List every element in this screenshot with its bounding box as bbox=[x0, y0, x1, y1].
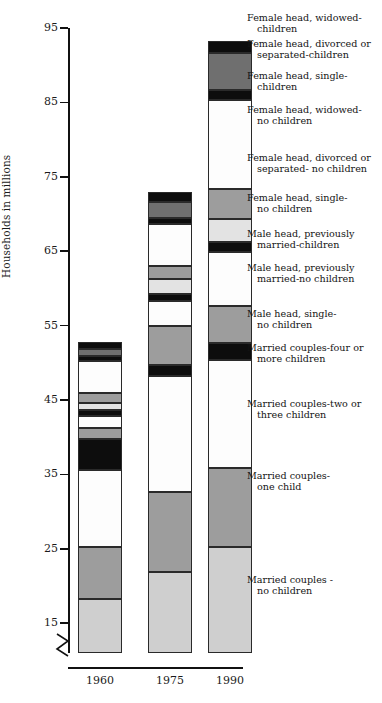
legend-item-line2: one child bbox=[257, 481, 302, 492]
legend-item-line2: separated-children bbox=[257, 49, 349, 60]
x-tick-label-1960: 1960 bbox=[70, 674, 130, 687]
legend-item: Married couples-two orthree children bbox=[247, 398, 382, 421]
bar-1990[interactable] bbox=[208, 41, 252, 667]
bar-segment[interactable] bbox=[148, 224, 192, 266]
bar-segment[interactable] bbox=[208, 242, 252, 252]
y-tick-65 bbox=[60, 250, 68, 252]
legend-item-line2: children bbox=[257, 81, 297, 92]
bar-segment[interactable] bbox=[78, 361, 122, 393]
legend-item: Female head, single-no children bbox=[247, 192, 382, 215]
bar-segment[interactable] bbox=[208, 343, 252, 360]
y-tick-85 bbox=[60, 102, 68, 104]
legend-item-line1: Male head, single- bbox=[247, 308, 336, 319]
y-tick-95 bbox=[60, 27, 68, 29]
bar-segment[interactable] bbox=[78, 599, 122, 653]
x-tick-label-1975: 1975 bbox=[140, 674, 200, 687]
legend-item-line2: no children bbox=[257, 115, 312, 126]
bar-segment[interactable] bbox=[78, 356, 122, 360]
axis-break-icon bbox=[54, 630, 80, 660]
legend-item: Female head, divorced orseparated-childr… bbox=[247, 38, 382, 61]
bar-segment[interactable] bbox=[78, 403, 122, 410]
legend-item-line1: Married couples- bbox=[247, 470, 330, 481]
legend: Female head, widowed-childrenFemale head… bbox=[247, 0, 382, 660]
bar-segment[interactable] bbox=[148, 492, 192, 572]
bar-1975[interactable] bbox=[148, 192, 192, 667]
bar-segment[interactable] bbox=[208, 189, 252, 220]
x-tick-label-1990: 1990 bbox=[200, 674, 260, 687]
bar-segment[interactable] bbox=[148, 376, 192, 492]
legend-item-line1: Male head, previously bbox=[247, 262, 354, 273]
bar-segment[interactable] bbox=[208, 41, 252, 54]
bar-segment[interactable] bbox=[148, 279, 192, 294]
legend-item-line1: Female head, widowed- bbox=[247, 12, 362, 23]
legend-item: Female head, single-children bbox=[247, 70, 382, 93]
legend-item-line1: Female head, divorced or bbox=[247, 152, 371, 163]
bar-segment[interactable] bbox=[78, 349, 122, 356]
bar-segment[interactable] bbox=[208, 90, 252, 100]
legend-item-line2: more children bbox=[257, 353, 325, 364]
legend-item-line2: separated- no children bbox=[257, 163, 367, 174]
bar-segment[interactable] bbox=[148, 218, 192, 224]
y-axis-line bbox=[68, 28, 70, 653]
bar-segment[interactable] bbox=[78, 342, 122, 349]
y-tick-label-65: 65 bbox=[18, 245, 58, 256]
legend-item-line2: three children bbox=[257, 409, 326, 420]
bar-segment[interactable] bbox=[148, 294, 192, 301]
legend-item-line2: no children bbox=[257, 319, 312, 330]
bar-segment[interactable] bbox=[78, 470, 122, 547]
legend-item-line2: married-no children bbox=[257, 273, 354, 284]
legend-item-line2: no children bbox=[257, 203, 312, 214]
legend-item-line1: Female head, single- bbox=[247, 192, 348, 203]
legend-item-line1: Married couples-two or bbox=[247, 398, 361, 409]
bar-segment[interactable] bbox=[208, 53, 252, 89]
bar-segment[interactable] bbox=[78, 393, 122, 403]
y-tick-label-55: 55 bbox=[18, 320, 58, 331]
y-tick-45 bbox=[60, 399, 68, 401]
bar-segment[interactable] bbox=[208, 100, 252, 189]
legend-item: Female head, widowed-children bbox=[247, 12, 382, 35]
bar-1960[interactable] bbox=[78, 342, 122, 667]
legend-item-line2: no children bbox=[257, 585, 312, 596]
bar-segment[interactable] bbox=[148, 202, 192, 218]
bar-segment[interactable] bbox=[148, 266, 192, 279]
bar-segment[interactable] bbox=[78, 416, 122, 427]
legend-item: Male head, single-no children bbox=[247, 308, 382, 331]
legend-item-line1: Female head, single- bbox=[247, 70, 348, 81]
legend-item-line1: Female head, divorced or bbox=[247, 38, 371, 49]
legend-item-line2: married-children bbox=[257, 239, 339, 250]
bar-segment[interactable] bbox=[148, 301, 192, 326]
bar-segment[interactable] bbox=[148, 192, 192, 202]
y-tick-75 bbox=[60, 176, 68, 178]
y-tick-label-95: 95 bbox=[18, 22, 58, 33]
y-tick-label-15: 15 bbox=[18, 617, 58, 628]
chart-container: Households in millions 15253545556575859… bbox=[0, 0, 382, 703]
y-tick-label-85: 85 bbox=[18, 96, 58, 107]
legend-item-line1: Male head, previously bbox=[247, 228, 354, 239]
y-tick-label-75: 75 bbox=[18, 171, 58, 182]
y-tick-25 bbox=[60, 548, 68, 550]
legend-item: Male head, previouslymarried-children bbox=[247, 228, 382, 251]
bar-segment[interactable] bbox=[148, 365, 192, 376]
legend-item: Female head, widowed-no children bbox=[247, 104, 382, 127]
legend-item: Male head, previouslymarried-no children bbox=[247, 262, 382, 285]
y-tick-15 bbox=[60, 622, 68, 624]
legend-item: Married couples-one child bbox=[247, 470, 382, 493]
bar-segment[interactable] bbox=[208, 219, 252, 242]
bar-segment[interactable] bbox=[78, 410, 122, 416]
legend-item-line1: Married couples-four or bbox=[247, 342, 364, 353]
legend-item-line1: Female head, widowed- bbox=[247, 104, 362, 115]
bar-segment[interactable] bbox=[148, 326, 192, 365]
bar-segment[interactable] bbox=[148, 572, 192, 653]
bar-segment[interactable] bbox=[208, 547, 252, 653]
y-tick-35 bbox=[60, 474, 68, 476]
bar-segment[interactable] bbox=[78, 428, 122, 440]
bar-segment[interactable] bbox=[78, 439, 122, 470]
legend-item-line2: children bbox=[257, 23, 297, 34]
legend-item: Married couples-four ormore children bbox=[247, 342, 382, 365]
bar-segment[interactable] bbox=[208, 306, 252, 342]
bar-segment[interactable] bbox=[208, 468, 252, 547]
bar-segment[interactable] bbox=[208, 252, 252, 306]
bar-segment[interactable] bbox=[208, 360, 252, 469]
bar-segment[interactable] bbox=[78, 547, 122, 598]
legend-item-line1: Married couples - bbox=[247, 574, 333, 585]
